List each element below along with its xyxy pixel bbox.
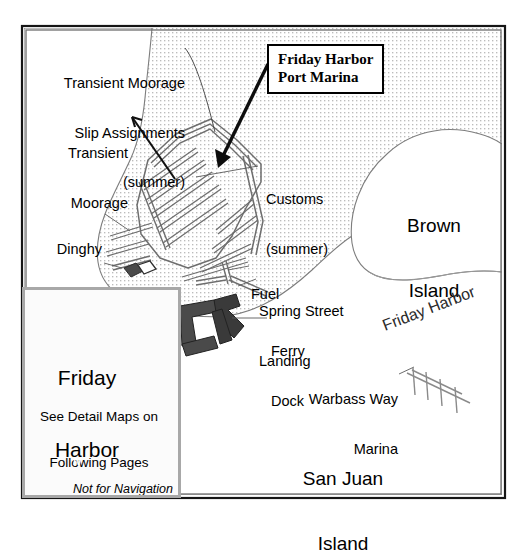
tmsa-line-1: Transient Moorage xyxy=(55,75,185,92)
label-san-juan-island: San Juan Island xyxy=(284,425,402,554)
inset-detail-panel[interactable]: Friday Harbor See Detail Maps on Followi… xyxy=(22,287,181,498)
inset-note-line-1: See Detail Maps on xyxy=(31,409,167,424)
title-box: Friday Harbor Port Marina xyxy=(267,44,384,94)
inset-disclaimer-line-1: Not for Navigation xyxy=(45,482,173,496)
sji-line-1: San Juan xyxy=(284,468,402,490)
title-line-2: Port Marina xyxy=(278,68,373,86)
wwm-line-1: Warbass Way xyxy=(288,391,398,408)
tm-line-1: Transient xyxy=(52,145,128,162)
bi-line-1: Brown xyxy=(388,215,480,237)
cu-line-1: Customs xyxy=(266,191,328,208)
sji-line-2: Island xyxy=(284,533,402,554)
title-line-1: Friday Harbor xyxy=(278,50,373,68)
inset-disclaimer: Not for Navigation Not to scale xyxy=(45,453,173,498)
compass-north-letter: N xyxy=(73,455,81,468)
